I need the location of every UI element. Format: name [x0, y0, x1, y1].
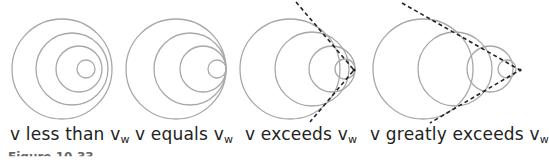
wavefront-circle: [180, 46, 226, 92]
label-subscript: w: [224, 133, 233, 146]
label-greatly-exceeds: v greatly exceeds vw: [370, 124, 549, 146]
wavefront-circle: [154, 33, 226, 105]
shock-cone-line: [402, 3, 520, 123]
label-text: v exceeds v: [245, 124, 348, 144]
wavefront-circle: [275, 32, 349, 106]
wavefront-circle: [309, 46, 355, 92]
wavefront-circle: [77, 60, 95, 78]
label-subscript: w: [348, 133, 357, 146]
panel-equals: [126, 19, 226, 119]
label-subscript: w: [540, 133, 549, 146]
source-point: [352, 68, 355, 71]
panel-greatly-exceeds: [373, 3, 522, 123]
wavefront-circle: [36, 33, 108, 105]
source-point: [518, 68, 521, 71]
wavefront-circle: [418, 32, 492, 106]
label-text: v less than v: [10, 124, 120, 144]
wavefront-circle: [335, 59, 355, 79]
label-less-than: v less than vw: [10, 124, 130, 146]
label-exceeds: v exceeds vw: [245, 124, 357, 146]
figure-caption: Figure 10.33: [8, 150, 94, 164]
shock-cone-line: [296, 2, 354, 122]
label-subscript: w: [120, 133, 129, 146]
label-text: v equals v: [135, 124, 224, 144]
panel-exceeds: [240, 2, 356, 122]
label-equals: v equals vw: [135, 124, 233, 146]
panel-less: [12, 19, 112, 119]
label-text: v greatly exceeds v: [370, 124, 540, 144]
wavefront-circle: [208, 60, 226, 78]
wavefront-circle: [126, 19, 226, 119]
